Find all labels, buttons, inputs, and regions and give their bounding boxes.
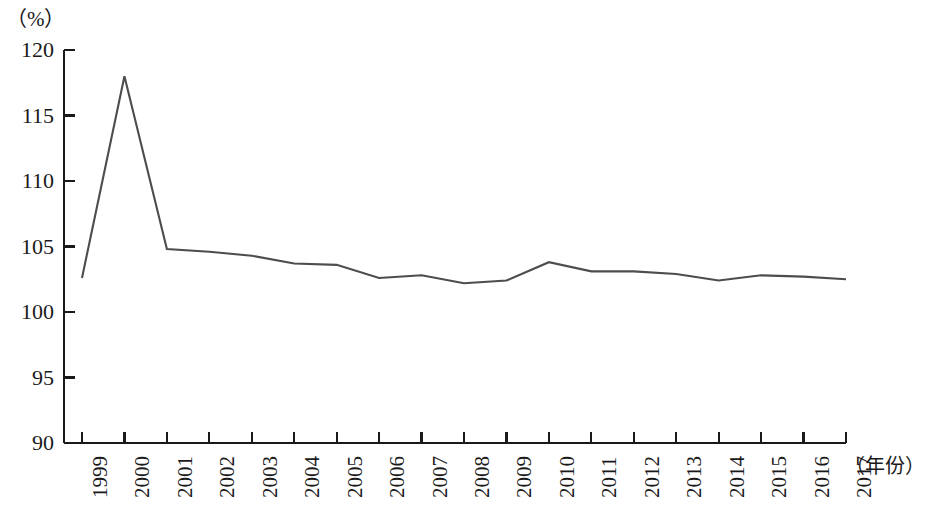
line-chart: （%） （年份） 1201151101051009590 19992000200…: [0, 0, 925, 506]
data-series: [82, 76, 846, 283]
plot-area: [0, 0, 925, 506]
axes: [64, 50, 846, 443]
data-line: [82, 76, 846, 283]
